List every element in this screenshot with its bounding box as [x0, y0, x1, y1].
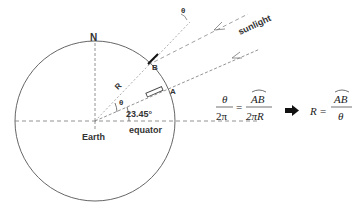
- point-b-label: B: [152, 63, 158, 72]
- arc-overline-1: [252, 90, 266, 92]
- angle-theta-sun-label: θ: [181, 6, 185, 15]
- formula: θ 2π = AB 2πR R = AB θ: [216, 90, 352, 122]
- formula-rhs-denominator: 2πR: [246, 110, 264, 122]
- equator-label: equator: [129, 125, 163, 135]
- theta-arc-center: [115, 103, 117, 112]
- formula-lhs-denominator: 2π: [216, 110, 228, 122]
- north-label: N: [90, 32, 97, 43]
- sunlight-label: sunlight: [237, 13, 273, 37]
- point-a-label: A: [170, 87, 176, 96]
- tilt-angle-label: 23.45°: [126, 109, 153, 119]
- formula-equals-1: =: [236, 101, 242, 113]
- angle-theta-center-label: θ: [119, 98, 123, 107]
- formula-rhs-numerator: AB: [250, 93, 265, 105]
- earth-label: Earth: [82, 132, 105, 142]
- formula-result-lhs: R: [309, 105, 317, 117]
- formula-result-numerator: AB: [333, 93, 348, 105]
- formula-equals-2: =: [320, 105, 326, 117]
- arc-overline-2: [335, 90, 349, 92]
- formula-result-denominator: θ: [338, 110, 344, 122]
- radius-label: R: [113, 81, 124, 92]
- gnomon-a: [146, 87, 163, 97]
- radius-to-b: [95, 22, 190, 121]
- sun-ray-a-arrowhead: [232, 52, 242, 58]
- right-arrow-icon: [285, 105, 299, 116]
- formula-lhs-numerator: θ: [222, 93, 228, 105]
- earth-diagram: N B A R θ θ 23.45° Earth equator sunligh…: [0, 0, 360, 208]
